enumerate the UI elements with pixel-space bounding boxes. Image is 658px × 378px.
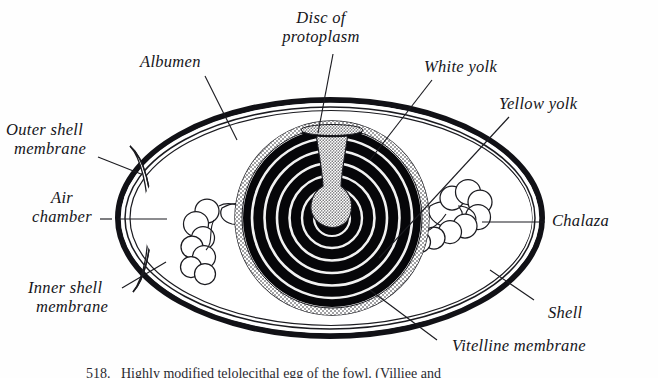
- label-albumen: Albumen: [140, 52, 201, 71]
- label-vitelline-membrane: Vitelline membrane: [452, 336, 586, 355]
- label-chalaza: Chalaza: [552, 211, 609, 230]
- label-inner-shell-membrane-line2: membrane: [36, 297, 108, 316]
- egg-anatomy-figure: Albumen Disc of protoplasm White yolk Ye…: [0, 0, 658, 378]
- label-inner-shell-membrane-line1: Inner shell: [28, 278, 102, 297]
- label-shell: Shell: [548, 303, 583, 322]
- leader-outer-shell: [98, 157, 141, 174]
- label-yellow-yolk: Yellow yolk: [499, 94, 577, 113]
- blastodisc-surface: [301, 125, 363, 136]
- label-disc-of-protoplasm-line1: Disc of: [262, 8, 380, 27]
- label-air-chamber-line2: chamber: [14, 207, 110, 226]
- label-air-chamber-line1: Air: [14, 188, 110, 207]
- label-outer-shell-membrane-line2: membrane: [14, 139, 86, 158]
- label-white-yolk: White yolk: [424, 57, 497, 76]
- label-outer-shell-membrane-line1: Outer shell: [6, 120, 83, 139]
- figure-caption: 518. Highly modified telolecithal egg of…: [86, 366, 646, 378]
- label-disc-of-protoplasm-line2: protoplasm: [262, 27, 380, 46]
